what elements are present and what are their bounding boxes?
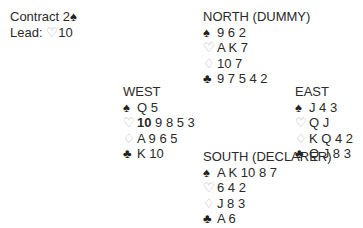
south-title: SOUTH (DECLARER) (203, 149, 332, 165)
contract-info: Contract 2♠ Lead: ♡10 (10, 9, 77, 40)
south-spades: A K 10 8 7 (217, 165, 277, 180)
diamond-icon: ♢ (295, 131, 309, 147)
north-hearts: A K 7 (217, 40, 248, 55)
spade-icon: ♠ (123, 100, 137, 116)
south-clubs: A 6 (217, 211, 236, 226)
lead-line: Lead: ♡10 (10, 25, 77, 41)
north-diamonds: 10 7 (217, 56, 242, 71)
east-title: EAST (295, 84, 353, 100)
club-icon: ♣ (123, 146, 137, 162)
east-hearts: Q J (309, 115, 329, 130)
north-hand: NORTH (DUMMY) ♠9 6 2 ♡A K 7 ♢10 7 ♣9 7 5… (203, 9, 310, 87)
lead-card: 10 (58, 25, 72, 40)
south-hand: SOUTH (DECLARER) ♠A K 10 8 7 ♡6 4 2 ♢J 8… (203, 149, 332, 227)
north-spades: 9 6 2 (217, 25, 246, 40)
spade-icon: ♠ (203, 165, 217, 181)
west-clubs: K 10 (137, 146, 164, 161)
spade-icon: ♠ (70, 9, 77, 24)
heart-icon: ♡ (295, 115, 309, 131)
spade-icon: ♠ (203, 25, 217, 41)
south-hearts: 6 4 2 (217, 180, 246, 195)
heart-icon: ♡ (46, 25, 58, 40)
west-hand: WEST ♠Q 5 ♡10 9 8 5 3 ♢A 9 6 5 ♣K 10 (123, 84, 195, 162)
heart-icon: ♡ (203, 180, 217, 196)
south-diamonds: J 8 3 (217, 196, 245, 211)
west-spades: Q 5 (137, 100, 158, 115)
north-clubs: 9 7 5 4 2 (217, 71, 268, 86)
heart-icon: ♡ (203, 40, 217, 56)
contract-value: 2 (63, 9, 70, 24)
club-icon: ♣ (203, 211, 217, 227)
contract-label: Contract (10, 9, 59, 24)
diamond-icon: ♢ (203, 56, 217, 72)
club-icon: ♣ (203, 71, 217, 87)
diamond-icon: ♢ (123, 131, 137, 147)
west-diamonds: A 9 6 5 (137, 131, 177, 146)
east-spades: J 4 3 (309, 100, 337, 115)
north-title: NORTH (DUMMY) (203, 9, 310, 25)
west-title: WEST (123, 84, 195, 100)
west-hearts: 9 8 5 3 (155, 115, 195, 130)
lead-label: Lead: (10, 25, 43, 40)
spade-icon: ♠ (295, 100, 309, 116)
contract-line: Contract 2♠ (10, 9, 77, 25)
diamond-icon: ♢ (203, 196, 217, 212)
west-hearts-lead-card: 10 (137, 115, 151, 130)
east-diamonds: K Q 4 2 (309, 131, 353, 146)
heart-icon: ♡ (123, 115, 137, 131)
